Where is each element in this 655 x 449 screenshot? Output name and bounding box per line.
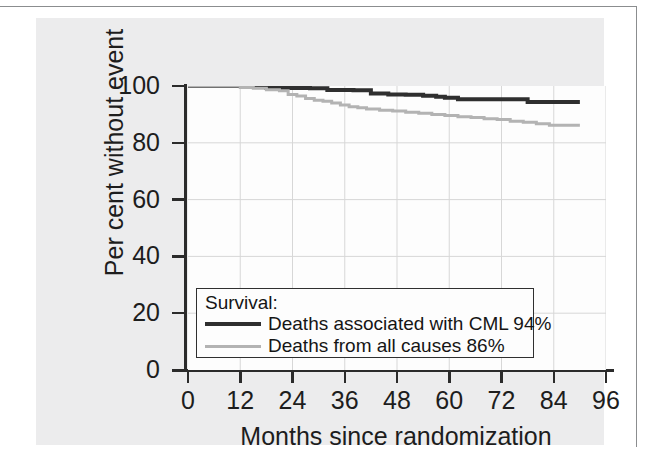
x-axis-title: Months since randomization <box>186 422 606 449</box>
y-tick <box>172 85 185 88</box>
y-tick <box>172 142 185 145</box>
legend-label-cml: Deaths associated with CML 94% <box>268 313 551 335</box>
x-tick-label: 60 <box>419 388 479 413</box>
x-tick-label: 0 <box>158 388 218 413</box>
x-tick-label: 72 <box>472 388 532 413</box>
y-tick-label: 80 <box>84 130 160 155</box>
x-tick-label: 48 <box>367 388 427 413</box>
legend-item-cml: Deaths associated with CML 94% <box>205 313 533 335</box>
y-tick <box>172 369 185 372</box>
y-tick-label: 40 <box>84 243 160 268</box>
x-tick-label: 24 <box>263 388 323 413</box>
legend-swatch-cml <box>205 322 261 326</box>
y-tick-label: 0 <box>84 357 160 382</box>
legend-label-all-causes: Deaths from all causes 86% <box>268 335 505 357</box>
legend-title: Survival: <box>205 292 533 313</box>
legend-swatch-all-causes <box>205 345 261 348</box>
x-tick <box>396 370 399 383</box>
legend: Survival: Deaths associated with CML 94%… <box>196 288 534 358</box>
x-tick-label: 96 <box>576 388 636 413</box>
legend-item-all-causes: Deaths from all causes 86% <box>205 335 533 357</box>
x-tick <box>344 370 347 383</box>
x-tick <box>553 370 556 383</box>
x-tick <box>187 370 190 383</box>
x-tick-label: 12 <box>210 388 270 413</box>
y-tick-label: 60 <box>84 187 160 212</box>
x-tick-label: 36 <box>315 388 375 413</box>
y-tick <box>172 312 185 315</box>
y-tick-label: 100 <box>84 73 160 98</box>
x-tick <box>291 370 294 383</box>
x-tick <box>605 370 608 383</box>
figure-panel: Per cent without event 02040608010001224… <box>36 18 604 445</box>
y-tick <box>172 198 185 201</box>
x-tick <box>239 370 242 383</box>
x-tick-label: 84 <box>524 388 584 413</box>
x-tick <box>448 370 451 383</box>
y-tick-label: 20 <box>84 300 160 325</box>
y-axis-line <box>184 84 187 372</box>
x-tick <box>500 370 503 383</box>
y-tick <box>172 255 185 258</box>
